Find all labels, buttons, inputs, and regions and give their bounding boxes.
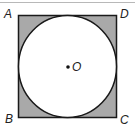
label-o: O: [72, 60, 81, 74]
label-b: B: [5, 112, 13, 126]
center-point-o: [66, 65, 70, 69]
label-c: C: [120, 113, 129, 127]
label-d: D: [120, 7, 129, 21]
label-a: A: [3, 7, 12, 21]
square-with-inscribed-circle-diagram: A D B C O: [0, 0, 135, 132]
